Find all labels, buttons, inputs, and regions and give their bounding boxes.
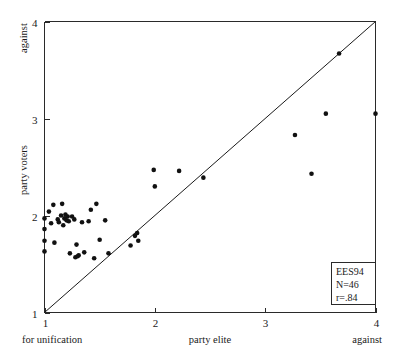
data-point [49, 221, 54, 226]
x-tick-label-3: 3 [263, 317, 269, 329]
data-point [74, 242, 79, 247]
data-point [135, 231, 140, 236]
data-point [106, 251, 111, 256]
y-tick-label-3: 3 [32, 114, 38, 126]
data-point [153, 184, 158, 189]
data-point [68, 251, 73, 256]
data-point [324, 111, 329, 116]
annotation-n-label: N=46 [336, 279, 359, 290]
axis-ticks [45, 23, 377, 314]
data-point [373, 111, 378, 116]
data-point [61, 223, 66, 228]
data-point [72, 217, 77, 222]
data-point [42, 238, 47, 243]
x-axis-title: party elite [189, 334, 232, 345]
data-point [42, 249, 47, 254]
y-tick-label-2: 2 [32, 211, 38, 223]
annotation-box: EES94 N=46 r=.84 [332, 263, 376, 305]
data-point [293, 133, 298, 138]
data-point [66, 219, 71, 224]
y-tick-label-1: 1 [32, 308, 38, 320]
x-axis-high-label: against [352, 334, 382, 345]
data-point [47, 209, 52, 214]
scatter-plot-figure: 12341234 party elite for unification aga… [0, 0, 404, 361]
y-tick-label-4: 4 [32, 17, 38, 29]
annotation-dataset-label: EES94 [336, 266, 364, 277]
data-point [60, 202, 65, 207]
x-tick-label-1: 1 [43, 317, 49, 329]
data-point [337, 51, 342, 56]
data-point [65, 214, 70, 219]
data-point [51, 203, 56, 208]
data-point [92, 256, 97, 261]
data-point [52, 240, 57, 245]
data-point [128, 243, 133, 248]
x-tick-label-2: 2 [153, 317, 159, 329]
data-point [151, 168, 156, 173]
y-axis-title: party voters [18, 145, 29, 195]
data-point [89, 207, 94, 212]
x-axis-low-label: for unification [22, 334, 83, 345]
data-point [136, 238, 141, 243]
data-point [86, 219, 91, 224]
data-points [42, 51, 378, 260]
data-point [177, 169, 182, 174]
data-point [309, 171, 314, 176]
annotation-r-label: r=.84 [336, 292, 357, 303]
data-point [76, 253, 81, 258]
data-point [82, 250, 87, 255]
identity-reference-line [45, 22, 376, 313]
data-point [97, 237, 102, 242]
data-point [42, 227, 47, 232]
data-point [201, 175, 206, 180]
data-point [57, 220, 62, 225]
x-tick-label-4: 4 [374, 317, 380, 329]
data-point [103, 218, 108, 223]
y-axis-high-label: against [18, 23, 29, 53]
data-point [42, 216, 47, 221]
data-point [80, 220, 85, 225]
data-point [94, 202, 99, 207]
